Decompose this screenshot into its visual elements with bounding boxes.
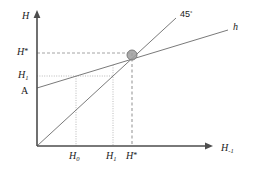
x-tick-label-h-one: H1 xyxy=(106,151,116,161)
guide-lines xyxy=(37,53,132,146)
x-tick-h-zero-subscript: 0 xyxy=(76,155,79,162)
x-axis-title-subscript: -1 xyxy=(228,147,233,154)
y-tick-label-h-one: H1 xyxy=(18,70,28,80)
degree-sign-icon: ° xyxy=(190,10,192,16)
y-tick-label-h-star: H* xyxy=(17,47,28,57)
phase-diagram-svg xyxy=(0,0,255,173)
curve-label-h: h xyxy=(233,22,238,32)
curve-label-45-degree: 45° xyxy=(180,10,192,19)
x-tick-label-h-zero: H0 xyxy=(69,151,79,161)
x-tick-label-h-star: H* xyxy=(126,151,137,161)
x-tick-h-one-subscript: 1 xyxy=(113,155,116,162)
y-axis-arrowhead xyxy=(34,10,41,18)
y-tick-h-one-subscript: 1 xyxy=(25,74,28,81)
y-axis-title: H xyxy=(22,11,29,21)
x-axis-title: H-1 xyxy=(221,143,234,153)
x-tick-h-star-superscript: * xyxy=(133,151,137,160)
equilibrium-point-marker xyxy=(127,50,137,60)
axes-group xyxy=(34,10,213,149)
y-tick-label-a: A xyxy=(21,86,28,96)
x-axis-arrowhead xyxy=(205,143,213,150)
figure-canvas: H H-1 H* H1 A H0 H1 H* 45° h xyxy=(0,0,255,173)
y-tick-h-star-superscript: * xyxy=(24,47,28,56)
